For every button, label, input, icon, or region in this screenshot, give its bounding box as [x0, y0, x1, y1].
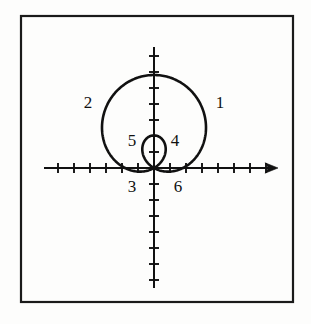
region-label-1: 1: [212, 94, 228, 111]
figure-border: [21, 16, 293, 302]
figure-canvas: [0, 0, 311, 324]
figure-container: 1 2 3 4 5 6: [0, 0, 311, 324]
region-label-4: 4: [167, 132, 183, 149]
region-label-6: 6: [170, 178, 186, 195]
region-label-2: 2: [80, 94, 96, 111]
region-label-5: 5: [124, 132, 140, 149]
axes-group: [44, 47, 278, 288]
region-label-3: 3: [124, 178, 140, 195]
